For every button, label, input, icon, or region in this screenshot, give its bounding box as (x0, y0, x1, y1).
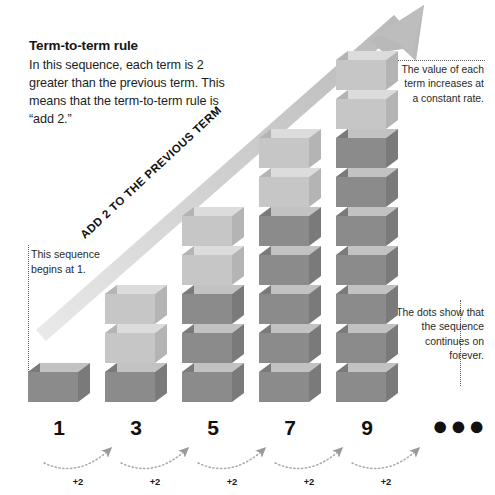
term-to-term-rule-block: Term-to-term rule In this sequence, each… (29, 38, 244, 128)
cube-base (336, 207, 398, 246)
cube-base (336, 246, 398, 285)
diagram-canvas: ADD 2 TO THE PREVIOUS TERM Term-to-term … (0, 0, 495, 495)
cube-base (259, 285, 321, 324)
callout-sequence-begins: This sequence begins at 1. (31, 247, 106, 276)
cube-base (336, 168, 398, 207)
step-label: +2 (366, 476, 406, 487)
cube-stack (259, 129, 321, 402)
cube-base (336, 129, 398, 168)
cube-stack (105, 285, 167, 402)
cube-new (105, 285, 167, 324)
cube-base (182, 285, 244, 324)
cube-new (182, 207, 244, 246)
step-arc (198, 449, 264, 469)
leader-line-left (28, 245, 29, 378)
cube-new (336, 51, 398, 90)
cube-base (259, 207, 321, 246)
cube-new (259, 129, 321, 168)
cube-stack (336, 51, 398, 402)
cube-base (28, 363, 90, 402)
cube-base (105, 363, 167, 402)
cube-base (336, 324, 398, 363)
cube-base (336, 363, 398, 402)
step-label: +2 (212, 476, 252, 487)
cube-base (182, 363, 244, 402)
cube-stack (28, 363, 90, 402)
step-arc (44, 449, 110, 469)
cube-base (336, 285, 398, 324)
step-arc (275, 449, 341, 469)
rule-body: In this sequence, each term is 2 greater… (29, 57, 244, 129)
rule-title: Term-to-term rule (29, 38, 244, 55)
step-label: +2 (58, 476, 98, 487)
cube-new (182, 246, 244, 285)
cube-new (259, 168, 321, 207)
step-arc (352, 449, 418, 469)
cube-base (259, 324, 321, 363)
cube-base (259, 363, 321, 402)
callout-dots-continue: The dots show that the sequence continue… (389, 306, 484, 363)
step-label: +2 (135, 476, 175, 487)
step-label: +2 (289, 476, 329, 487)
cube-base (259, 246, 321, 285)
step-arc (121, 449, 187, 469)
cube-new (336, 90, 398, 129)
callout-constant-rate: The value of each term increases at a co… (396, 63, 484, 106)
cube-stack (182, 207, 244, 402)
cube-base (182, 324, 244, 363)
cube-new (105, 324, 167, 363)
